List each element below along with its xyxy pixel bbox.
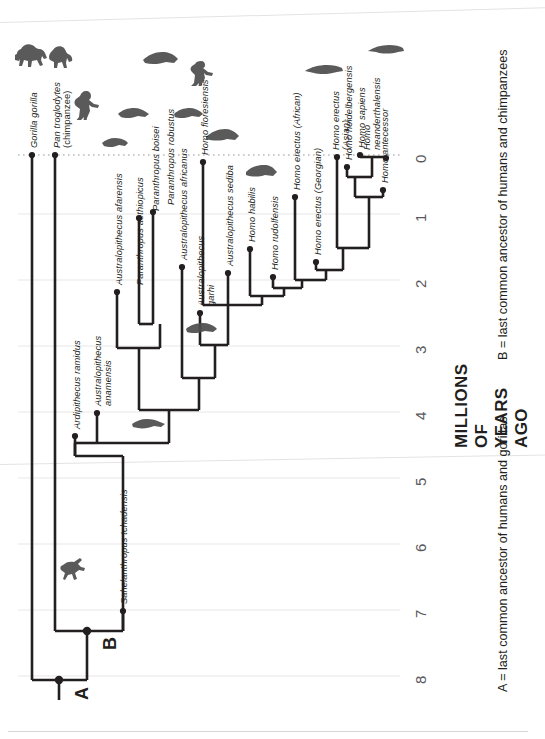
tip-homo-heidelbergensis — [344, 164, 350, 170]
tip-australopithecus-garhi — [197, 310, 203, 316]
tip-gorilla-gorilla — [29, 152, 35, 158]
label-neanderthal-line1: Homo — [362, 78, 372, 150]
label-pan-troglodytes: Pan troglodytes (chimpanzee) — [52, 82, 72, 148]
sahelanthropus-silhouette — [60, 555, 88, 580]
tip-australopithecus-afarensis — [114, 289, 120, 295]
label-australopithecus-garhi: Australopithecus garhi — [196, 236, 216, 306]
tip-homo-floresiensis — [200, 159, 206, 165]
label-homo-habilis: Homo habilis — [247, 187, 257, 242]
node-b — [83, 627, 91, 635]
axis-tick-6: 6 — [412, 544, 429, 552]
axis-tick-8: 8 — [412, 676, 429, 684]
africanus-silhouette — [172, 105, 203, 122]
tip-homo-erectus-georgian — [313, 259, 319, 265]
label-ardipithecus-ramidus: Ardipithecus ramidus — [72, 340, 82, 429]
label-paranthropus-boisei: Paranthropus boisei — [151, 126, 161, 211]
habilis-silhouette — [244, 162, 277, 181]
tip-pan-troglodytes — [52, 152, 58, 158]
label-pan-troglodytes-line2: (chimpanzee) — [62, 82, 72, 148]
label-gorilla-gorilla: Gorilla gorilla — [29, 92, 39, 148]
axis-tick-1: 1 — [412, 214, 429, 222]
sapiens-silhouette — [366, 44, 404, 57]
afarensis-silhouette — [74, 90, 101, 120]
label-paranthropus-robustus: Paranthropus robustus — [166, 109, 176, 205]
axis-title: MILLIONS OF YEARS AGO — [452, 364, 532, 448]
tip-homo-erectus-african — [292, 194, 298, 200]
axis-tick-0: 0 — [412, 155, 429, 163]
legend-a: A = last common ancestor of humans and g… — [496, 417, 510, 692]
tip-homo-erectus-asian — [334, 154, 340, 160]
label-garhi-genus: Australopithecus — [196, 236, 206, 306]
label-homo-floresiensis: Homo floresiensis — [200, 79, 210, 155]
axis-tick-7: 7 — [412, 610, 429, 618]
label-homo-neanderthalensis: Homo neanderthalensis — [362, 78, 382, 150]
label-paranthropus-aethiopicus: Paranthropus aethiopicus — [135, 177, 145, 285]
erectus-asian-silhouette — [303, 63, 343, 77]
tip-sahelanthropus-tchadensis — [120, 608, 126, 614]
node-letter-a: A — [72, 687, 93, 700]
label-erectus-asian-line1: Homo erectus — [331, 91, 341, 150]
tip-homo-rudolfensis — [270, 274, 276, 280]
boisei-silhouette — [116, 105, 149, 122]
tip-australopithecus-anamensis — [94, 410, 100, 416]
robustus-silhouette — [141, 50, 178, 68]
axis-tick-4: 4 — [412, 412, 429, 420]
label-australopithecus-africanus: Australopithecus africanus — [179, 148, 189, 260]
node-letter-b: B — [100, 637, 121, 650]
label-australopithecus-afarensis: Australopithecus afarensis — [114, 173, 124, 285]
axis-tick-2: 2 — [412, 280, 429, 288]
label-homo-heidelbergensis: Homo heidelbergensis — [344, 65, 354, 160]
label-homo-erectus-african: Homo erectus (African) — [292, 92, 302, 190]
anamensis-silhouette — [130, 415, 166, 432]
tip-ardipithecus-ramidus — [72, 433, 78, 439]
chimpanzee-silhouette — [47, 44, 74, 70]
label-neanderthal-line2: neanderthalensis — [372, 78, 382, 150]
axis-tick-3: 3 — [412, 346, 429, 354]
tip-nodes — [29, 152, 389, 684]
label-sahelanthropus-tchadensis: Sahelanthropus tchadensis — [119, 489, 129, 604]
label-homo-erectus-georgian: Homo erectus (Georgian) — [313, 148, 323, 255]
tip-homo-habilis — [247, 246, 253, 252]
gorilla-silhouette — [13, 42, 49, 72]
label-australopithecus-anamensis: Australopithecus anamensis — [93, 336, 113, 406]
tip-homo-antecessor — [380, 187, 386, 193]
legend-b: B = last common ancestor of humans and c… — [496, 50, 510, 360]
tip-homo-sapiens — [357, 152, 363, 158]
label-pan-troglodytes-line1: Pan troglodytes — [52, 82, 62, 148]
aethiopicus-silhouette — [100, 135, 128, 151]
label-australopithecus-sediba: Australopithecus sediba — [225, 165, 235, 266]
label-garhi-species: garhi — [206, 236, 216, 306]
axis-tick-5: 5 — [412, 478, 429, 486]
tip-australopithecus-africanus — [179, 264, 185, 270]
label-homo-rudolfensis: Homo rudolfensis — [270, 196, 280, 270]
tip-australopithecus-sediba — [225, 270, 231, 276]
label-anamensis-species: anamensis — [103, 336, 113, 406]
garhi-silhouette — [184, 320, 217, 337]
label-anamensis-genus: Australopithecus — [93, 336, 103, 406]
node-a — [55, 676, 63, 684]
